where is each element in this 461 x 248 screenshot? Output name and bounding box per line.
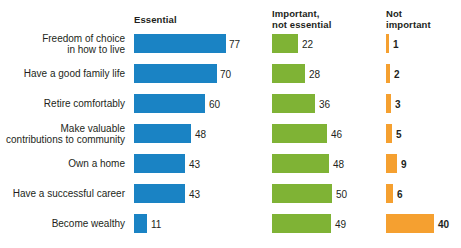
category-label: Freedom of choice in how to live [0,32,129,55]
bar-not-important [386,94,391,113]
column-header-essential: Essential [134,14,177,25]
bar-value-not-important: 6 [397,188,403,199]
chart-row: Retire comfortably 60 36 3 [0,93,461,114]
bar-important [272,154,329,173]
bar-group-not-important: 1 [386,33,461,54]
bar-value-essential: 60 [209,98,220,109]
bar-important [272,184,332,203]
bar-value-important: 49 [335,218,346,229]
bar-group-important: 28 [272,63,382,84]
bar-group-important: 50 [272,183,382,204]
bar-group-important: 49 [272,213,382,234]
bar-value-important: 22 [302,38,313,49]
bar-group-essential: 70 [134,63,264,84]
bar-essential [134,214,147,233]
bar-not-important [386,184,393,203]
bar-value-important: 28 [309,68,320,79]
bar-group-important: 22 [272,33,382,54]
category-label: Have a good family life [0,68,129,80]
bar-value-not-important: 9 [401,158,407,169]
bar-group-not-important: 2 [386,63,461,84]
chart-row: Become wealthy 11 49 40 [0,213,461,234]
bar-group-essential: 43 [134,183,264,204]
bar-group-essential: 60 [134,93,264,114]
bar-group-essential: 48 [134,123,264,144]
grouped-bar-chart: Essential Important, not essential Not i… [0,0,461,248]
bar-group-important: 46 [272,123,382,144]
bar-value-essential: 43 [189,158,200,169]
category-label: Become wealthy [0,218,129,230]
bar-important [272,214,331,233]
bar-essential [134,64,217,83]
bar-essential [134,124,191,143]
bar-value-essential: 11 [151,218,161,229]
bar-value-essential: 48 [195,128,206,139]
category-label: Have a successful career [0,188,129,200]
chart-row: Have a good family life 70 28 2 [0,63,461,84]
bar-important [272,34,298,53]
bar-group-not-important: 3 [386,93,461,114]
bar-value-important: 36 [319,98,330,109]
bar-not-important [386,124,392,143]
bar-value-essential: 70 [220,68,231,79]
bar-essential [134,184,185,203]
bar-value-essential: 43 [189,188,200,199]
bar-value-not-important: 2 [394,68,400,79]
bar-group-important: 48 [272,153,382,174]
bar-important [272,64,305,83]
bar-essential [134,154,185,173]
category-label: Make valuable contributions to community [0,122,129,145]
column-header-important-not-essential: Important, not essential [272,8,331,30]
bar-not-important [386,154,397,173]
bar-important [272,94,315,113]
bar-not-important [386,34,389,53]
bar-value-important: 48 [333,158,344,169]
bar-group-not-important: 6 [386,183,461,204]
bar-group-not-important: 5 [386,123,461,144]
bar-group-important: 36 [272,93,382,114]
bar-important [272,124,327,143]
bar-essential [134,94,205,113]
bar-value-not-important: 40 [438,218,449,229]
bar-value-not-important: 5 [396,128,402,139]
bar-value-important: 50 [336,188,347,199]
bar-value-essential: 77 [229,38,240,49]
chart-row: Own a home 43 48 9 [0,153,461,174]
bar-value-not-important: 3 [395,98,401,109]
category-label: Retire comfortably [0,98,129,110]
bar-not-important [386,64,390,83]
bar-group-essential: 43 [134,153,264,174]
category-label: Own a home [0,158,129,170]
bar-value-important: 46 [331,128,342,139]
bar-group-not-important: 9 [386,153,461,174]
bar-value-not-important: 1 [393,38,399,49]
bar-group-essential: 77 [134,33,264,54]
chart-row: Make valuable contributions to community… [0,123,461,144]
chart-row: Freedom of choice in how to live 77 22 1 [0,33,461,54]
bar-not-important [386,214,434,233]
column-header-not-important: Not important [386,8,431,30]
bar-group-essential: 11 [134,213,264,234]
bar-group-not-important: 40 [386,213,461,234]
bar-essential [134,34,226,53]
chart-row: Have a successful career 43 50 6 [0,183,461,204]
